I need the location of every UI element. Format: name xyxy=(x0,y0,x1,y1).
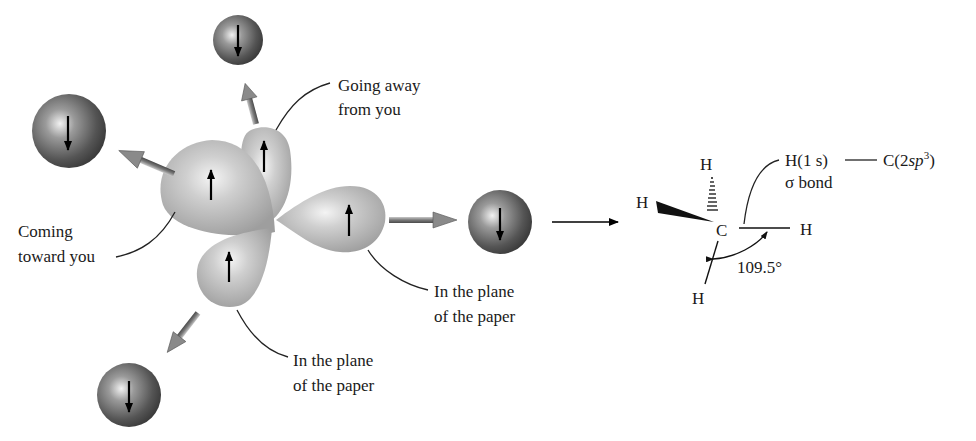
bond-type-label: σ bond xyxy=(785,173,833,192)
approach-arrow-bottom-icon xyxy=(161,308,204,357)
label-plane-bottom: In the plane xyxy=(293,351,373,370)
hashed-bond xyxy=(707,178,718,210)
atom-h-top: H xyxy=(700,155,712,174)
bond-description-c: C(2sp3) xyxy=(883,149,935,170)
atom-h-right: H xyxy=(800,220,812,239)
lobe-plane-bottom xyxy=(197,228,272,307)
bond-description-h: H(1 s) xyxy=(785,151,828,170)
sp3-hybrid-orbitals xyxy=(160,127,385,307)
atom-h-left: H xyxy=(636,193,648,212)
lobe-plane-right xyxy=(276,186,386,252)
label-going-away: Going away xyxy=(338,76,421,95)
approach-arrow-top-icon xyxy=(237,81,263,126)
label-plane-right: of the paper xyxy=(434,307,516,326)
atom-c: C xyxy=(716,221,727,240)
label-plane-right: In the plane xyxy=(434,282,514,301)
bond-angle-label: 109.5° xyxy=(737,258,782,277)
sigma-bond-leader xyxy=(744,160,779,224)
methane-bonding-diagram: Going away from you Coming toward you In… xyxy=(0,0,976,441)
approach-arrow-right-icon xyxy=(389,212,457,228)
methane-structure: C H H H H 109.5° H(1 s) C(2sp3) σ bond xyxy=(636,149,935,308)
wedge-bond xyxy=(656,201,714,222)
label-coming-toward: Coming xyxy=(18,222,73,241)
atom-h-bottom: H xyxy=(692,289,704,308)
label-plane-bottom: of the paper xyxy=(293,376,375,395)
label-going-away: from you xyxy=(338,100,401,119)
bond-bottom xyxy=(705,241,718,284)
label-coming-toward: toward you xyxy=(18,247,95,266)
